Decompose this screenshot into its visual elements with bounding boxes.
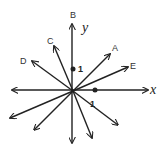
y-unit-label: 1 bbox=[78, 64, 83, 74]
y-unit-point bbox=[71, 67, 76, 72]
label-d: D bbox=[20, 56, 27, 66]
x-unit-label: 1 bbox=[90, 99, 95, 109]
label-a: A bbox=[112, 43, 118, 53]
vector-diagram: B y C A D E 1 1 x bbox=[0, 0, 162, 150]
label-b: B bbox=[70, 10, 76, 20]
y-axis-label: y bbox=[80, 20, 89, 35]
vector-unlabeled-2 bbox=[34, 91, 73, 130]
label-e: E bbox=[130, 61, 136, 71]
x-unit-point bbox=[93, 88, 98, 93]
vector-unlabeled-1 bbox=[10, 91, 73, 118]
label-c: C bbox=[47, 36, 54, 46]
x-axis-label: x bbox=[149, 82, 157, 97]
